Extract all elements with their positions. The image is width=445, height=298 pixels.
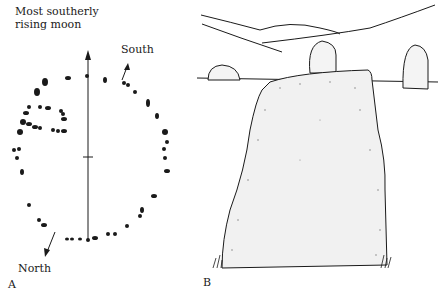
main-standing-stone (222, 70, 387, 268)
south-arrow-icon (124, 63, 130, 70)
panel-b-label: B (203, 276, 211, 289)
moon-arrow-icon (85, 50, 91, 60)
standing-stones (12, 74, 170, 242)
stone-circle-plan (0, 0, 445, 298)
north-label: North (18, 262, 51, 275)
panel-a-label: A (8, 278, 16, 291)
moon-annotation-line2: rising moon (15, 18, 81, 31)
south-label: South (121, 43, 154, 56)
moon-annotation-line1: Most southerly (15, 5, 99, 18)
north-arrow-icon (44, 248, 50, 257)
